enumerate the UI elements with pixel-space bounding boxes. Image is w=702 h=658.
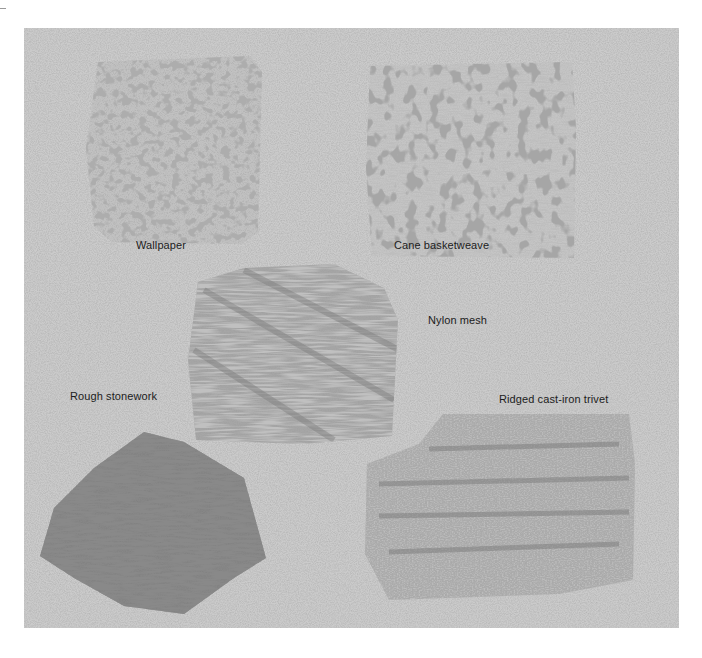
nylon-mesh-label: Nylon mesh (428, 314, 487, 326)
margin-mark (0, 8, 6, 9)
cane-basketweave-label: Cane basketweave (394, 239, 489, 251)
ridged-cast-iron-trivet-label: Ridged cast-iron trivet (499, 393, 608, 405)
rough-stonework-rubbing (34, 428, 274, 618)
rough-stonework-label: Rough stonework (70, 390, 157, 402)
wallpaper-rubbing (72, 48, 282, 248)
cane-basketweave-rubbing (362, 48, 602, 263)
texture-rubbing-panel: Wallpaper Cane basketweave (24, 28, 679, 628)
ridged-cast-iron-trivet-rubbing (359, 404, 659, 604)
wallpaper-label: Wallpaper (136, 239, 186, 251)
